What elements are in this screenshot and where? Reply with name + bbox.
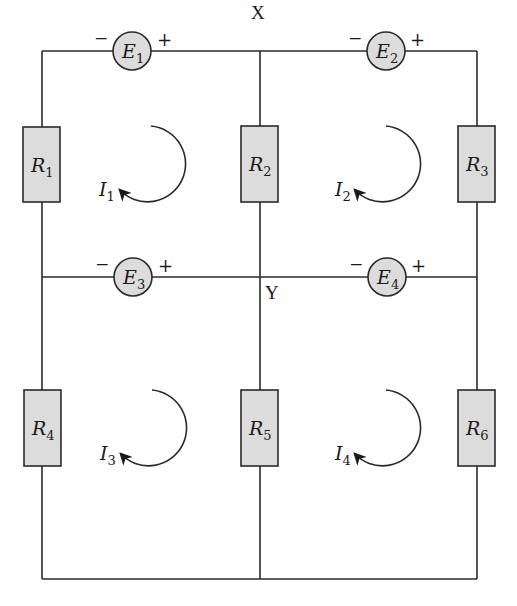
source-e4: E4 − + bbox=[349, 254, 426, 296]
mesh-current-i4: I4 bbox=[334, 390, 421, 468]
source-e1-minus: − bbox=[94, 28, 108, 48]
source-e4-plus: + bbox=[411, 255, 426, 276]
clockwise-arrow-icon bbox=[120, 126, 186, 202]
resistor-r6: R6 bbox=[458, 390, 495, 466]
resistor-r5: R5 bbox=[241, 390, 278, 466]
source-e3: E3 − + bbox=[95, 254, 173, 296]
mesh-current-i4-label: I4 bbox=[334, 442, 351, 468]
mesh-current-i3: I3 bbox=[99, 390, 187, 468]
node-y-label: Y bbox=[265, 282, 279, 303]
resistor-r2: R2 bbox=[241, 126, 278, 202]
source-e2-minus: − bbox=[348, 28, 362, 48]
resistor-r1: R1 bbox=[23, 127, 60, 202]
mesh-current-i3-label: I3 bbox=[99, 442, 116, 468]
node-x-label: X bbox=[251, 2, 265, 23]
source-e1-plus: + bbox=[157, 29, 172, 50]
source-e3-minus: − bbox=[95, 254, 109, 274]
mesh-current-i2-label: I2 bbox=[334, 178, 351, 204]
source-e4-minus: − bbox=[349, 254, 363, 274]
resistor-r3: R3 bbox=[458, 126, 495, 202]
mesh-current-i1-label: I1 bbox=[98, 178, 115, 204]
source-e3-plus: + bbox=[158, 255, 173, 276]
clockwise-arrow-icon bbox=[355, 126, 421, 202]
mesh-current-i2: I2 bbox=[334, 126, 421, 204]
resistor-r4: R4 bbox=[24, 390, 61, 466]
source-e2: E2 − + bbox=[348, 28, 425, 70]
clockwise-arrow-icon bbox=[355, 390, 421, 466]
source-e1: E1 − + bbox=[94, 28, 172, 70]
source-e2-plus: + bbox=[410, 29, 425, 50]
clockwise-arrow-icon bbox=[121, 390, 187, 466]
mesh-current-i1: I1 bbox=[98, 126, 186, 204]
circuit-diagram: X Y E1 − + E2 − + E3 − + E4 − + R1 R2 R3 bbox=[0, 0, 517, 606]
